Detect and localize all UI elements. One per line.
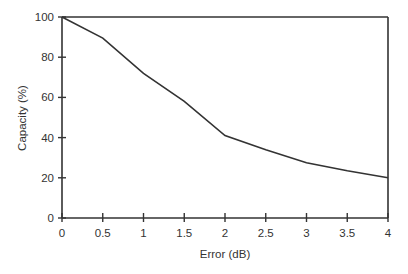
y-tick-label: 40 — [41, 132, 54, 144]
x-tick-label: 3.5 — [339, 227, 355, 239]
x-tick-label: 2 — [222, 227, 228, 239]
x-tick-label: 4 — [385, 227, 392, 239]
x-tick-label: 2.5 — [258, 227, 274, 239]
y-tick-label: 100 — [35, 11, 54, 23]
x-tick-label: 3 — [303, 227, 309, 239]
y-tick-label: 20 — [41, 172, 54, 184]
y-axis-label: Capacity (%) — [16, 85, 28, 151]
x-tick-label: 1.5 — [176, 227, 192, 239]
x-tick-label: 1 — [140, 227, 146, 239]
y-tick-label: 0 — [48, 212, 54, 224]
plot-frame — [62, 17, 388, 218]
x-tick-label: 0 — [59, 227, 65, 239]
x-axis-label: Error (dB) — [200, 248, 251, 260]
y-tick-label: 60 — [41, 91, 54, 103]
capacity-line — [62, 17, 388, 178]
x-tick-label: 0.5 — [95, 227, 111, 239]
y-tick-label: 80 — [41, 51, 54, 63]
x-axis-ticks: 00.511.522.533.54 — [59, 213, 392, 239]
capacity-vs-error-chart: 020406080100 00.511.522.533.54 Error (dB… — [0, 0, 408, 274]
